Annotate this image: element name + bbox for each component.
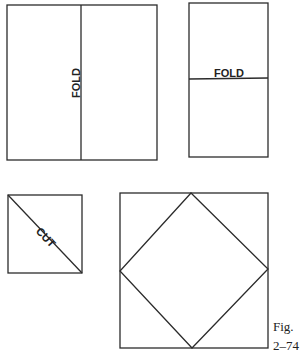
diagonal-cut-square: CUT <box>8 195 82 273</box>
figure-caption-prefix: Fig. <box>273 319 294 334</box>
square-outline <box>120 193 268 348</box>
sheet-outline <box>189 3 268 157</box>
fold-diagram: FOLD FOLD CUT Fig. 2–74 <box>0 0 303 356</box>
figure-caption-number: 2–74 <box>273 338 300 353</box>
horizontal-fold-sheet: FOLD <box>189 3 268 157</box>
cut-label: CUT <box>34 225 58 250</box>
sheet-outline <box>7 5 157 160</box>
fold-label: FOLD <box>214 67 244 79</box>
fold-label: FOLD <box>70 68 82 98</box>
inscribed-diamond <box>120 193 268 348</box>
diamond-in-square <box>120 193 268 348</box>
vertical-fold-sheet: FOLD <box>7 5 157 160</box>
